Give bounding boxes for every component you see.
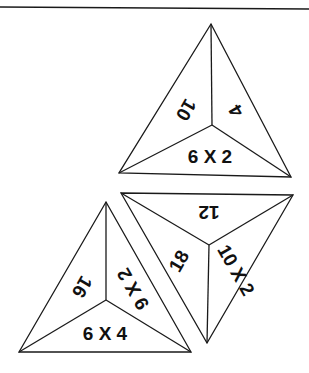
top-border-line bbox=[0, 7, 309, 9]
triangle-top: 10 4 6 X 2 bbox=[119, 24, 291, 177]
triangle-bottom-right-right-label: 10 X 2 bbox=[213, 241, 259, 299]
puzzle-diagram: 10 4 6 X 2 12 18 10 X 2 16 9 X 2 6 X 4 bbox=[0, 0, 309, 373]
triangle-top-left-label: 10 bbox=[172, 96, 201, 125]
triangle-bottom-right: 12 18 10 X 2 bbox=[121, 193, 293, 343]
triangle-bottom-left: 16 9 X 2 6 X 4 bbox=[19, 202, 191, 352]
triangle-top-right-label: 4 bbox=[224, 101, 248, 121]
triangle-bottom-left-bottom-label: 6 X 4 bbox=[83, 323, 128, 344]
triangle-top-bottom-label: 6 X 2 bbox=[188, 146, 232, 167]
triangle-bottom-left-left-label: 16 bbox=[68, 273, 97, 302]
triangle-bottom-right-top-label: 12 bbox=[198, 202, 219, 223]
triangle-bottom-left-right-label: 9 X 2 bbox=[113, 265, 153, 314]
triangle-bottom-right-left-label: 18 bbox=[165, 247, 194, 276]
